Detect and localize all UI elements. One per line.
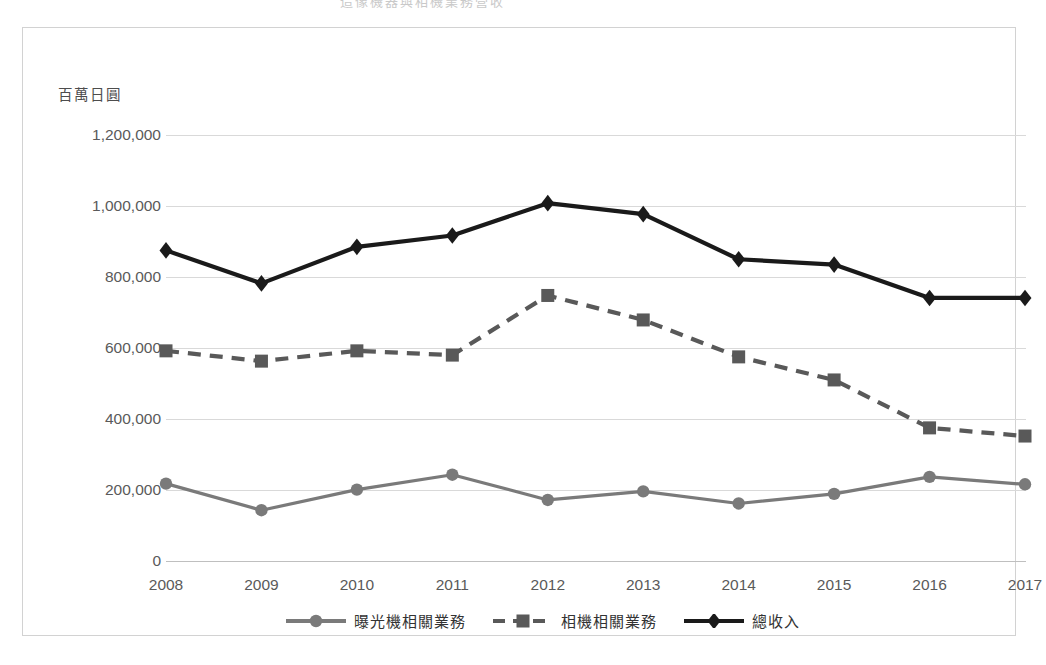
gridline [166,277,1026,278]
y-tick-label: 400,000 [56,410,161,428]
x-tick-label: 2009 [244,576,278,594]
data-point-diamond [708,614,721,628]
gridline [166,135,1026,136]
x-tick-label: 2010 [340,576,374,594]
x-axis-tick-labels: 2008200920102011201220132014201520162017 [166,576,1026,598]
legend-item-0[interactable]: 曝光機相關業務 [285,610,466,631]
gridline [166,206,1026,207]
x-tick-label: 2015 [817,576,851,594]
data-point-square [517,614,530,627]
legend-marker-square-icon [492,614,554,628]
x-tick-label: 2013 [626,576,660,594]
y-axis-tick-labels: 0200,000400,000600,000800,0001,000,0001,… [51,128,161,568]
y-tick-label: 200,000 [56,481,161,499]
plot-area [166,128,1026,568]
axis-baseline [166,561,1026,562]
data-point-circle [310,614,322,626]
y-tick-label: 800,000 [56,268,161,286]
clipped-title-strip: 造像機器與相機業務營收 [0,0,1039,14]
x-tick-label: 2017 [1008,576,1042,594]
legend-item-2[interactable]: 總收入 [683,610,800,631]
x-tick-label: 2012 [531,576,565,594]
gridline [166,419,1026,420]
y-tick-label: 1,200,000 [56,126,161,144]
x-tick-label: 2014 [721,576,755,594]
y-tick-label: 0 [56,552,161,570]
legend-label: 總收入 [752,610,800,631]
legend-label: 相機相關業務 [561,610,657,631]
legend-marker-diamond-icon [683,614,745,628]
legend-item-1[interactable]: 相機相關業務 [492,610,657,631]
x-tick-label: 2008 [149,576,183,594]
gridline [166,490,1026,491]
x-tick-label: 2016 [912,576,946,594]
x-tick-label: 2011 [436,576,469,594]
legend-marker-circle-icon [285,614,347,628]
chart-frame: 百萬日圓 0200,000400,000600,000800,0001,000,… [22,27,1016,636]
gridline [166,348,1026,349]
y-tick-label: 600,000 [56,339,161,357]
axis-unit-label: 百萬日圓 [58,83,122,104]
chart-legend: 曝光機相關業務相機相關業務總收入 [23,610,1046,631]
y-tick-label: 1,000,000 [56,197,161,215]
clipped-title-text: 造像機器與相機業務營收 [340,0,505,10]
legend-label: 曝光機相關業務 [354,610,466,631]
